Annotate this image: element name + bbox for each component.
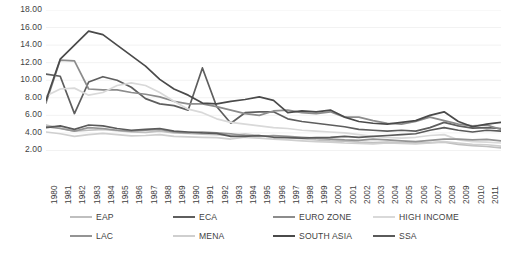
y-axis-tick-label: 10.00 xyxy=(4,75,42,84)
legend-swatch-icon xyxy=(70,235,92,237)
x-axis-tick-label: 2007 xyxy=(434,185,443,204)
legend-row: EAPECAEURO ZONEHIGH INCOME xyxy=(70,208,490,226)
legend-label: EAP xyxy=(96,212,114,222)
legend-label: SSA xyxy=(399,231,417,241)
x-axis-tick-label: 1981 xyxy=(64,185,73,204)
x-axis: 1980198119821983198419851986198719881989… xyxy=(46,170,501,206)
legend-item-lac[interactable]: LAC xyxy=(70,227,113,245)
chart-legend: EAPECAEURO ZONEHIGH INCOMELACMENASOUTH A… xyxy=(70,208,490,252)
plot-area xyxy=(46,10,501,168)
x-axis-tick-label: 1990 xyxy=(192,185,201,204)
y-axis: 18.0016.0014.0012.0010.008.006.004.002.0… xyxy=(0,0,42,172)
legend-item-ssa[interactable]: SSA xyxy=(373,227,417,245)
series-line-euro-zone xyxy=(46,60,501,129)
y-axis-tick-label: 2.00 xyxy=(4,145,42,154)
x-axis-tick-label: 1988 xyxy=(164,185,173,204)
x-axis-tick-label: 2004 xyxy=(391,185,400,204)
y-axis-tick-label: 8.00 xyxy=(4,93,42,102)
legend-swatch-icon xyxy=(373,216,395,218)
legend-item-mena[interactable]: MENA xyxy=(173,227,224,245)
x-axis-tick-label: 2010 xyxy=(477,185,486,204)
legend-label: HIGH INCOME xyxy=(399,212,459,222)
legend-item-high-income[interactable]: HIGH INCOME xyxy=(373,208,459,226)
y-axis-tick-label: 6.00 xyxy=(4,110,42,119)
legend-swatch-icon xyxy=(273,216,295,218)
x-axis-tick-label: 1996 xyxy=(278,185,287,204)
y-axis-tick-label: 18.00 xyxy=(4,5,42,14)
x-axis-tick-label: 2011 xyxy=(491,186,500,204)
x-axis-tick-label: 1985 xyxy=(121,185,130,204)
x-axis-tick-label: 1987 xyxy=(150,185,159,204)
x-axis-tick-label: 2001 xyxy=(349,185,358,204)
x-axis-tick-label: 2009 xyxy=(462,185,471,204)
y-axis-tick-label: 16.00 xyxy=(4,23,42,32)
legend-item-eap[interactable]: EAP xyxy=(70,208,114,226)
x-axis-tick-label: 1983 xyxy=(93,185,102,204)
legend-label: MENA xyxy=(199,231,224,241)
x-axis-tick-label: 1994 xyxy=(249,185,258,204)
x-axis-tick-label: 2002 xyxy=(363,185,372,204)
x-axis-tick-label: 1992 xyxy=(221,185,230,204)
x-axis-tick-label: 1982 xyxy=(78,185,87,204)
legend-row: LACMENASOUTH ASIASSA xyxy=(70,227,490,245)
x-axis-tick-label: 2006 xyxy=(420,185,429,204)
x-axis-tick-label: 1998 xyxy=(306,185,315,204)
x-axis-tick-label: 2008 xyxy=(448,185,457,204)
x-axis-tick-label: 1984 xyxy=(107,185,116,204)
y-axis-tick-label: 12.00 xyxy=(4,58,42,67)
series-line-eca xyxy=(46,68,501,131)
x-axis-tick-label: 1993 xyxy=(235,185,244,204)
legend-item-euro-zone[interactable]: EURO ZONE xyxy=(273,208,351,226)
y-axis-tick-label: 14.00 xyxy=(4,40,42,49)
legend-item-south-asia[interactable]: SOUTH ASIA xyxy=(273,227,352,245)
x-axis-tick-label: 2000 xyxy=(334,185,343,204)
x-axis-tick-label: 2005 xyxy=(405,185,414,204)
x-axis-tick-label: 1995 xyxy=(263,185,272,204)
x-axis-tick-label: 1999 xyxy=(320,185,329,204)
x-axis-tick-label: 1989 xyxy=(178,185,187,204)
legend-swatch-icon xyxy=(173,235,195,237)
inflation-line-chart: 18.0016.0014.0012.0010.008.006.004.002.0… xyxy=(0,0,505,259)
x-axis-tick-label: 2003 xyxy=(377,185,386,204)
legend-label: ECA xyxy=(199,212,217,222)
y-axis-tick-label: 4.00 xyxy=(4,128,42,137)
x-axis-tick-label: 1997 xyxy=(292,185,301,204)
legend-swatch-icon xyxy=(373,235,395,237)
x-axis-tick-label: 1980 xyxy=(50,185,59,204)
x-axis-tick-label: 1991 xyxy=(206,185,215,204)
legend-swatch-icon xyxy=(173,216,195,218)
series-line-mena xyxy=(46,132,501,146)
legend-label: LAC xyxy=(96,231,113,241)
x-axis-tick-label: 1986 xyxy=(135,185,144,204)
legend-swatch-icon xyxy=(273,235,295,237)
legend-label: EURO ZONE xyxy=(299,212,351,222)
legend-label: SOUTH ASIA xyxy=(299,231,352,241)
legend-item-eca[interactable]: ECA xyxy=(173,208,217,226)
legend-swatch-icon xyxy=(70,216,92,218)
